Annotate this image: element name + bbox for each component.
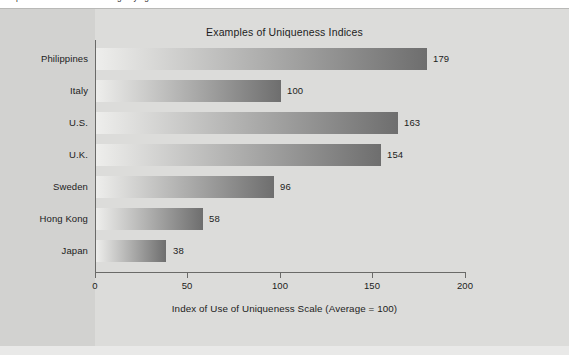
bar-us	[96, 112, 398, 134]
bar-sweden	[96, 176, 274, 198]
bar-value-sweden: 96	[280, 181, 291, 192]
category-label-text: Philippines	[4, 53, 88, 64]
x-tick-label-50: 50	[167, 280, 207, 291]
bar-japan	[96, 240, 166, 262]
category-label-text: Sweden	[4, 181, 88, 192]
x-tick-label-150: 150	[352, 280, 392, 291]
x-tick-100	[280, 273, 281, 278]
figure-root: uniqueness scale than in stating buying …	[0, 0, 569, 355]
bar-italy	[96, 80, 281, 102]
bar-uk	[96, 144, 381, 166]
x-tick-label-100: 100	[260, 280, 300, 291]
x-tick-0	[95, 273, 96, 278]
bar-value-philippines: 179	[433, 53, 449, 64]
category-label-text: Japan	[4, 245, 88, 256]
x-tick-150	[372, 273, 373, 278]
category-label-text: Italy	[4, 85, 88, 96]
bar-value-us: 163	[404, 117, 420, 128]
x-tick-50	[187, 273, 188, 278]
x-tick-label-0: 0	[75, 280, 115, 291]
bar-value-japan: 38	[173, 245, 184, 256]
x-tick-label-200: 200	[445, 280, 485, 291]
x-axis-title: Index of Use of Uniqueness Scale (Averag…	[0, 303, 569, 314]
bar-hong-kong	[96, 208, 203, 230]
category-label-text: Hong Kong	[4, 213, 88, 224]
bar-value-uk: 154	[387, 149, 403, 160]
bar-philippines	[96, 48, 427, 70]
category-label-text: U.K.	[4, 149, 88, 160]
x-tick-200	[465, 273, 466, 278]
category-label-text: U.S.	[4, 117, 88, 128]
bar-value-italy: 100	[287, 85, 303, 96]
plot-area: Philippines Italy U.S. U.K. Sweden Hong …	[0, 0, 569, 355]
y-axis-line	[95, 40, 96, 272]
bar-value-hong-kong: 58	[209, 213, 220, 224]
